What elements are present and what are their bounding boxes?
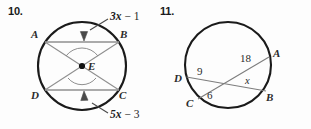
point-label-A: A — [30, 28, 38, 40]
angle-arc-bottom — [68, 78, 96, 85]
arrow-head-bottom — [81, 91, 88, 101]
angle-arc-top — [66, 48, 98, 56]
arrow-head-top — [80, 32, 87, 41]
segment-label-6: 6 — [207, 89, 213, 101]
annotation-term: 5x — [110, 108, 122, 120]
point-label-C: C — [119, 89, 127, 101]
worksheet-page: 10. E A B C D 3x − — [0, 0, 311, 129]
point-label-D: D — [30, 89, 39, 101]
problem-10: 10. E A B C D 3x − — [0, 0, 155, 129]
point-label-B: B — [119, 28, 127, 40]
center-point-E — [79, 63, 85, 69]
point-label-C: C — [186, 97, 194, 109]
problem-11-figure: A B C D 18 9 6 x — [156, 0, 311, 129]
point-label-D: D — [173, 72, 182, 84]
point-label-B: B — [265, 91, 273, 103]
segment-label-18: 18 — [240, 52, 252, 64]
problem-10-figure: E A B C D 3x − 1 5x − 3 — [0, 0, 155, 129]
annotation-tail: − 3 — [122, 108, 140, 120]
bottom-chord-annotation: 5x − 3 — [110, 108, 140, 120]
segment-label-x: x — [244, 75, 250, 86]
center-label-E: E — [87, 60, 95, 72]
point-label-A: A — [272, 47, 280, 59]
problem-11: 11. A B C D 18 9 6 x — [156, 0, 311, 129]
annotation-term: 3x — [109, 10, 122, 22]
segment-label-9: 9 — [197, 65, 203, 77]
chord-DB — [187, 77, 267, 91]
top-chord-annotation: 3x − 1 — [109, 10, 140, 22]
annotation-tail: − 1 — [122, 10, 140, 22]
